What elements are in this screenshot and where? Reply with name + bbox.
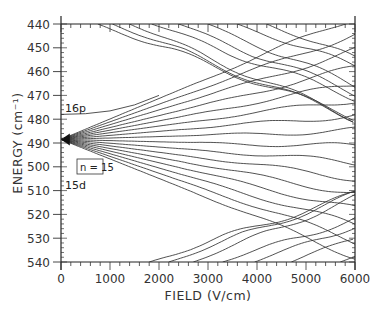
svg-text:490: 490 bbox=[27, 137, 50, 151]
svg-text:5000: 5000 bbox=[291, 272, 322, 286]
stark-map-chart: 0100020003000400050006000440450460470480… bbox=[0, 0, 379, 312]
y-axis-title: ENERGY (cm⁻¹) bbox=[10, 92, 25, 193]
svg-text:510: 510 bbox=[27, 184, 50, 198]
svg-text:3000: 3000 bbox=[193, 272, 224, 286]
svg-text:460: 460 bbox=[27, 65, 50, 79]
svg-text:470: 470 bbox=[27, 89, 50, 103]
svg-text:500: 500 bbox=[27, 160, 50, 174]
svg-text:440: 440 bbox=[27, 18, 50, 32]
svg-text:540: 540 bbox=[27, 256, 50, 270]
x-axis-title: FIELD (V/cm) bbox=[165, 288, 252, 303]
svg-text:1000: 1000 bbox=[95, 272, 126, 286]
svg-text:520: 520 bbox=[27, 208, 50, 222]
svg-text:4000: 4000 bbox=[242, 272, 273, 286]
svg-text:0: 0 bbox=[57, 272, 65, 286]
label-16p: 16p bbox=[65, 102, 86, 115]
svg-text:530: 530 bbox=[27, 232, 50, 246]
n15-label-box: n = 15 bbox=[77, 159, 114, 174]
svg-text:480: 480 bbox=[27, 113, 50, 127]
svg-text:2000: 2000 bbox=[144, 272, 175, 286]
label-15d: 15d bbox=[65, 179, 86, 192]
svg-text:6000: 6000 bbox=[340, 272, 371, 286]
energy-level-lines bbox=[61, 20, 355, 262]
svg-text:450: 450 bbox=[27, 41, 50, 55]
svg-text:n = 15: n = 15 bbox=[80, 162, 114, 173]
